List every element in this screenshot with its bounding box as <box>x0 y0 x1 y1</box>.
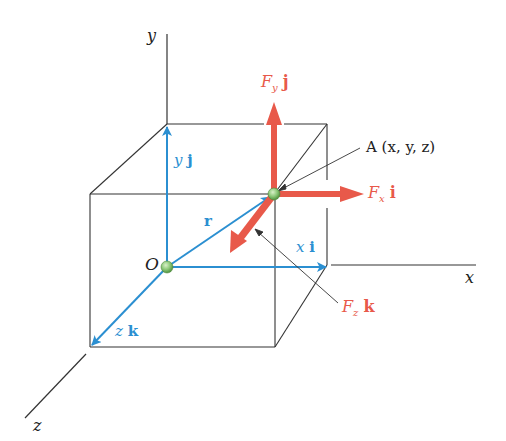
xi-coef: x <box>296 238 304 256</box>
Fz-unit: k <box>363 297 374 316</box>
xi-label: x i <box>296 240 315 255</box>
Fx-F: F <box>368 183 379 202</box>
point-A <box>268 188 280 200</box>
leader-lines <box>255 148 360 303</box>
r-label: r <box>204 214 212 229</box>
cube <box>90 124 327 347</box>
xi-unit: i <box>309 238 315 256</box>
point-A-label: A (x, y, z) <box>366 140 435 155</box>
z-axis-label: z <box>33 418 41 434</box>
origin-point <box>161 261 173 273</box>
Fx-label: Fx i <box>368 185 396 201</box>
x-axis-label: x <box>465 270 474 286</box>
yj-coef: y <box>174 151 182 169</box>
leader-A <box>280 148 360 190</box>
Fy-F: F <box>261 72 272 91</box>
yj-unit: j <box>187 151 192 169</box>
diagram-canvas <box>0 0 506 441</box>
Fx-sub: x <box>379 193 385 204</box>
Fy-label: Fy j <box>261 74 289 90</box>
r-vector <box>167 197 270 267</box>
Fz-F: F <box>342 297 353 316</box>
z-axis-line <box>25 354 86 418</box>
zk-label: z k <box>115 324 138 339</box>
zk-coef: z <box>115 322 123 340</box>
Fz-sub: z <box>353 307 358 318</box>
origin-label: O <box>145 256 159 273</box>
Fy-sub: y <box>272 82 278 93</box>
Fx-unit: i <box>390 183 396 202</box>
zk-unit: k <box>128 322 138 340</box>
Fz-label: Fz k <box>342 299 375 315</box>
yj-label: y j <box>174 153 193 168</box>
y-axis-label: y <box>147 28 156 44</box>
force-vectors <box>230 102 364 253</box>
Fy-unit: j <box>283 72 289 91</box>
